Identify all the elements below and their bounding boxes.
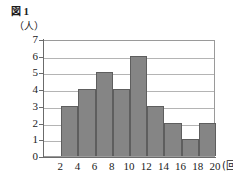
y-axis-tick-label-text: 5 (24, 67, 38, 78)
y-axis-tick-label: 2 (22, 118, 38, 129)
y-axis-tick-mark (39, 73, 43, 74)
y-axis-tick-mark (39, 140, 43, 141)
x-axis-tick-label: 10 (124, 160, 135, 172)
figure-caption: 図1 (11, 5, 30, 18)
histogram-bar (199, 123, 216, 156)
x-axis-tick-label: 2 (57, 160, 63, 172)
histogram-bar (130, 56, 147, 156)
x-axis-tick-label: 14 (158, 160, 169, 172)
histogram-bar (147, 106, 164, 156)
x-axis-line (43, 157, 216, 158)
y-axis-tick-mark (39, 107, 43, 108)
y-axis-tick-mark (39, 57, 43, 58)
y-axis-tick-label: 1 (22, 134, 38, 145)
y-axis-tick-mark (39, 124, 43, 125)
plot-area (43, 40, 215, 157)
y-axis-tick-label: 4 (22, 84, 38, 95)
x-axis-tick-label: 12 (141, 160, 152, 172)
y-axis-tick-label: 0 (22, 151, 38, 162)
histogram-bar (96, 72, 113, 156)
x-axis-tick-label: 6 (92, 160, 98, 172)
y-axis-tick-mark (39, 157, 43, 158)
figure-root: 図1 （人） 01234567 2468101214161820(回) (0, 0, 233, 189)
y-axis-tick-label-text: 7 (24, 34, 38, 45)
histogram-bar (61, 106, 78, 156)
y-axis-tick-label: 6 (22, 51, 38, 62)
x-axis-unit-label: (回) (222, 160, 233, 172)
y-axis-tick-label: 5 (22, 67, 38, 78)
figure-caption-number: 1 (24, 5, 30, 17)
y-axis-tick-label-text: 0 (24, 151, 38, 162)
y-axis-tick-mark (39, 90, 43, 91)
y-axis-tick-label-text: 3 (24, 101, 38, 112)
y-axis-tick-label-text: 2 (24, 118, 38, 129)
histogram-bar (113, 89, 130, 156)
y-axis-tick-label-text: 1 (24, 134, 38, 145)
figure-caption-word: 図 (11, 6, 22, 17)
x-axis-tick-label: 8 (109, 160, 115, 172)
y-axis-tick-mark (39, 40, 43, 41)
histogram-bar (182, 139, 199, 156)
x-axis-tick-label: 4 (75, 160, 81, 172)
x-axis-tick-label: 20 (210, 160, 221, 172)
histogram-bar (78, 89, 95, 156)
x-axis-tick-label: 16 (175, 160, 186, 172)
y-axis-tick-label-text: 6 (24, 51, 38, 62)
y-axis-line (43, 39, 44, 158)
bars-layer (44, 41, 214, 156)
y-axis-tick-label: 7 (22, 34, 38, 45)
x-axis-tick-label: 18 (192, 160, 203, 172)
y-axis-tick-label-text: 4 (24, 84, 38, 95)
y-axis-unit-label: （人） (14, 20, 44, 33)
histogram-bar (164, 123, 181, 156)
y-axis-tick-label: 3 (22, 101, 38, 112)
